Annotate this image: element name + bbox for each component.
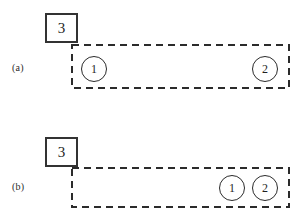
panel-b-node-1-label: 1: [229, 182, 235, 194]
panel-b-label: (b): [12, 181, 24, 193]
panel-b-node-2-label: 2: [262, 182, 268, 194]
figure-canvas: (a) 3 1 2 (b) 3 1 2: [0, 0, 306, 213]
panel-a-node-2: 2: [252, 56, 278, 82]
panel-b-outside-box: 3: [45, 137, 78, 167]
panel-a-outside-box: 3: [45, 13, 78, 43]
panel-b-node-1: 1: [219, 175, 245, 201]
panel-b-node-2: 2: [252, 175, 278, 201]
panel-b-outside-box-label: 3: [58, 145, 66, 160]
panel-a-outside-box-label: 3: [58, 21, 66, 36]
panel-a-node-1-label: 1: [91, 63, 97, 75]
panel-a-node-1: 1: [81, 56, 107, 82]
panel-a-node-2-label: 2: [262, 63, 268, 75]
panel-a-label: (a): [12, 62, 24, 74]
